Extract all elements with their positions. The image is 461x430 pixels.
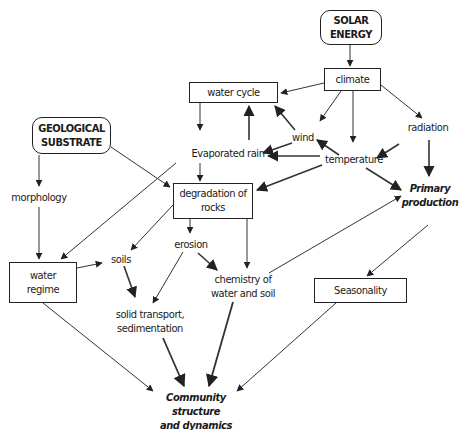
edge-solidtransport-community bbox=[163, 338, 184, 386]
edge-climate-watercycle bbox=[281, 83, 324, 93]
node-soils: soils bbox=[106, 252, 136, 268]
edge-chemistry-community bbox=[209, 302, 233, 386]
edge-climate-wind bbox=[320, 91, 341, 121]
node-climate: climate bbox=[324, 68, 381, 91]
node-evaporated-rain: Evaporated rain bbox=[185, 145, 271, 163]
edge-waterregime-soils bbox=[77, 263, 102, 268]
edge-wind-watercycle bbox=[275, 106, 295, 130]
edge-climate-radiation bbox=[381, 85, 422, 118]
edge-degradation-soils bbox=[131, 205, 173, 250]
node-community-structure: Community structure and dynamics bbox=[146, 396, 246, 428]
edge-erosion-chemistry bbox=[198, 253, 217, 270]
node-seasonality: Seasonality bbox=[314, 278, 407, 303]
node-degradation-of-rocks: degradation of rocks bbox=[173, 183, 253, 219]
edge-chemistry-primary bbox=[269, 196, 401, 273]
node-wind: wind bbox=[288, 131, 318, 145]
edge-primary-seasonality bbox=[367, 225, 428, 276]
edge-evaporated-waterregime bbox=[61, 163, 176, 259]
edge-soils-solidtransport bbox=[124, 266, 135, 297]
node-water-regime: water regime bbox=[9, 262, 77, 303]
node-primary-production: Primary production bbox=[400, 178, 460, 214]
node-radiation: radiation bbox=[400, 120, 456, 136]
node-geological-substrate: GEOLOGICAL SUBSTRATE bbox=[32, 117, 111, 154]
edge-geo-degradation bbox=[111, 147, 170, 187]
edge-erosion-solidtransport bbox=[153, 252, 183, 303]
node-solar-energy: SOLAR ENERGY bbox=[320, 10, 382, 45]
node-morphology: morphology bbox=[8, 190, 70, 206]
edge-temperature-degradation bbox=[257, 165, 322, 190]
node-solid-transport: solid transport, sedimentation bbox=[102, 306, 198, 338]
edge-temperature-primary bbox=[366, 168, 401, 190]
node-water-cycle: water cycle bbox=[189, 82, 278, 103]
node-erosion: erosion bbox=[170, 237, 212, 253]
edge-seasonality-community bbox=[237, 303, 336, 391]
node-temperature: temperature bbox=[318, 152, 390, 168]
node-chemistry: chemistry of water and soil bbox=[205, 272, 281, 302]
